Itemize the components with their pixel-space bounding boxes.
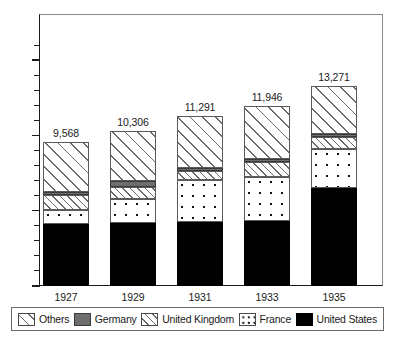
bar-segment-uk[interactable]: [244, 162, 290, 177]
bar-segment-us[interactable]: [177, 222, 223, 286]
bar-total-label: 11,946: [252, 91, 283, 103]
bar-segment-france[interactable]: [311, 149, 357, 188]
bar-segment-uk[interactable]: [177, 171, 223, 180]
bar-segment-germany[interactable]: [311, 134, 357, 137]
x-axis-tick-label: 1933: [237, 291, 297, 303]
legend-label: Others: [39, 313, 69, 325]
bar-stack: [311, 86, 357, 286]
bar-segment-us[interactable]: [43, 224, 89, 286]
bar-segment-france[interactable]: [110, 199, 156, 223]
bar-group[interactable]: 9,568: [43, 142, 89, 286]
bar-group[interactable]: 11,291: [177, 116, 223, 286]
bar-group[interactable]: 13,271: [311, 86, 357, 286]
bar-segment-uk[interactable]: [43, 195, 89, 210]
bar-total-label: 13,271: [318, 71, 350, 83]
legend-swatch-icon: [74, 313, 91, 326]
legend-swatch-icon: [18, 313, 35, 326]
x-axis-tick-label: 1927: [36, 291, 96, 303]
bar-stack: [177, 116, 223, 286]
bars-layer: 9,568192710,306192911,291193111,94619331…: [0, 0, 395, 337]
bar-segment-germany[interactable]: [177, 168, 223, 171]
bar-segment-others[interactable]: [244, 106, 290, 159]
bar-segment-germany[interactable]: [43, 192, 89, 195]
chart-legend: OthersGermanyUnited KingdomFranceUnited …: [11, 307, 384, 331]
bar-segment-france[interactable]: [244, 177, 290, 221]
legend-swatch-icon: [141, 313, 158, 326]
legend-entry[interactable]: Others: [18, 313, 69, 326]
bar-segment-us[interactable]: [110, 223, 156, 286]
bar-total-label: 10,306: [117, 116, 149, 128]
bar-total-label: 9,568: [53, 127, 79, 139]
bar-stack: [43, 142, 89, 286]
bar-segment-france[interactable]: [177, 180, 223, 222]
bar-segment-uk[interactable]: [110, 187, 156, 199]
x-axis-tick-label: 1931: [170, 291, 230, 303]
legend-swatch-icon: [239, 313, 256, 326]
bar-stack: [110, 131, 156, 286]
bar-segment-germany[interactable]: [110, 181, 156, 187]
bar-segment-uk[interactable]: [311, 137, 357, 149]
legend-entry[interactable]: Germany: [74, 313, 137, 326]
bar-segment-others[interactable]: [311, 86, 357, 134]
bar-group[interactable]: 10,306: [110, 131, 156, 286]
bar-total-label: 11,291: [185, 101, 216, 113]
legend-swatch-icon: [296, 313, 313, 326]
bar-group[interactable]: 11,946: [244, 106, 290, 286]
bar-segment-others[interactable]: [43, 142, 89, 192]
bar-segment-us[interactable]: [244, 221, 290, 287]
legend-entry[interactable]: France: [239, 313, 291, 326]
legend-entry[interactable]: United States: [296, 313, 377, 326]
legend-label: United States: [317, 313, 377, 325]
bar-segment-others[interactable]: [110, 131, 156, 181]
legend-entry[interactable]: United Kingdom: [141, 313, 234, 326]
legend-label: France: [260, 313, 291, 325]
bar-segment-us[interactable]: [311, 188, 357, 286]
bar-stack: [244, 106, 290, 286]
bar-segment-france[interactable]: [43, 210, 89, 224]
legend-label: United Kingdom: [162, 313, 234, 325]
x-axis-tick-label: 1929: [103, 291, 163, 303]
stacked-bar-chart-figure: 05,00010,00015,000 9,568192710,306192911…: [0, 0, 395, 337]
legend-label: Germany: [95, 313, 137, 325]
x-axis-tick-label: 1935: [304, 291, 364, 303]
bar-segment-germany[interactable]: [244, 159, 290, 162]
bar-segment-others[interactable]: [177, 116, 223, 168]
